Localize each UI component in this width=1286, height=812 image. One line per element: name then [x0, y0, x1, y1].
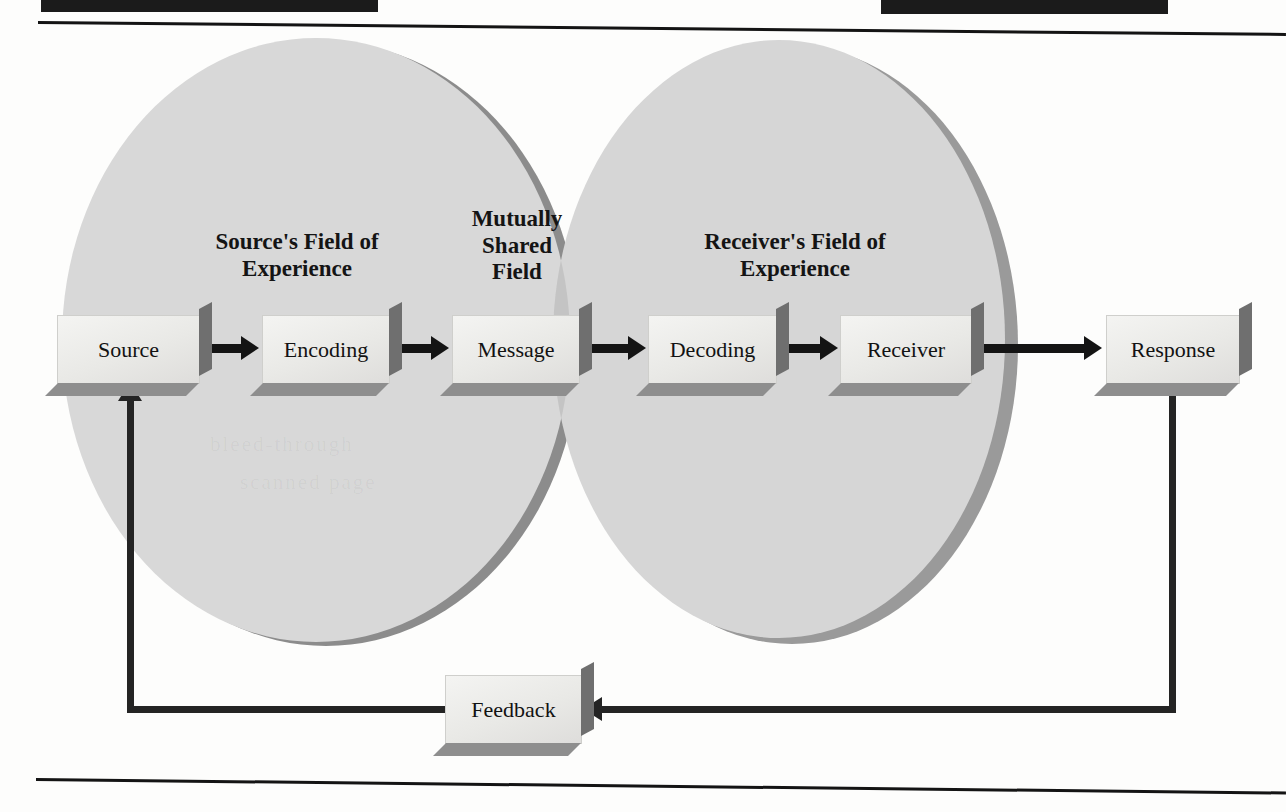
arrow-message-to-decoding: [590, 344, 629, 353]
node-source-label: Source: [98, 337, 159, 363]
box-bottom-face: [433, 743, 581, 756]
box-right-face: [776, 302, 789, 376]
arrow-decoding-to-receiver: [788, 344, 821, 353]
feedback-line-bottom-left: [127, 706, 447, 713]
node-response-label: Response: [1131, 337, 1215, 363]
node-receiver-label: Receiver: [867, 337, 945, 363]
shared-field-label: Mutually Shared Field: [447, 206, 587, 286]
header-bar-left: [41, 0, 378, 12]
feedback-line-bottom-right: [600, 706, 1176, 713]
node-feedback-label: Feedback: [471, 697, 555, 723]
box-right-face: [389, 302, 402, 376]
arrow-encoding-to-message: [400, 344, 432, 353]
node-source[interactable]: Source: [57, 315, 200, 384]
node-message[interactable]: Message: [452, 315, 580, 384]
box-right-face: [579, 302, 592, 376]
feedback-line-down: [1169, 388, 1176, 713]
node-encoding-label: Encoding: [284, 337, 368, 363]
node-encoding[interactable]: Encoding: [262, 315, 390, 384]
node-feedback[interactable]: Feedback: [445, 675, 582, 744]
top-rule: [38, 21, 1286, 36]
node-message-label: Message: [478, 337, 555, 363]
box-bottom-face: [1094, 383, 1239, 396]
bottom-rule: [36, 778, 1286, 795]
box-right-face: [581, 662, 594, 736]
node-decoding[interactable]: Decoding: [648, 315, 777, 384]
box-bottom-face: [828, 383, 971, 396]
feedback-line-up: [127, 398, 134, 710]
box-right-face: [199, 302, 212, 376]
arrow-receiver-to-response: [975, 344, 1085, 353]
box-right-face: [1239, 302, 1252, 376]
header-bar-right: [881, 0, 1168, 14]
diagram-page: bleed-through scanned page Source's Fiel…: [0, 0, 1286, 812]
node-decoding-label: Decoding: [670, 337, 756, 363]
box-bottom-face: [636, 383, 776, 396]
receiver-field-label: Receiver's Field of Experience: [660, 229, 930, 282]
node-receiver[interactable]: Receiver: [840, 315, 972, 384]
box-bottom-face: [250, 383, 389, 396]
box-right-face: [971, 302, 984, 376]
box-bottom-face: [440, 383, 579, 396]
source-field-label: Source's Field of Experience: [172, 229, 422, 282]
box-bottom-face: [45, 383, 199, 396]
node-response[interactable]: Response: [1106, 315, 1240, 384]
